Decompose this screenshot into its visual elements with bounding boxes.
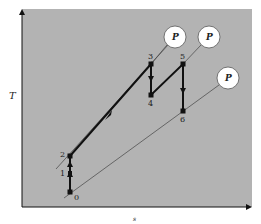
svg-text:P: P xyxy=(171,32,179,42)
point-label-1: 1 xyxy=(60,169,65,178)
point-label-6: 6 xyxy=(180,115,185,124)
point-label-2: 2 xyxy=(60,150,65,159)
pressure-label-3: P xyxy=(217,67,239,89)
svg-text:P: P xyxy=(224,73,232,83)
point-label-5: 5 xyxy=(180,52,185,61)
point-label-4: 4 xyxy=(148,99,153,108)
point-label-3: 3 xyxy=(148,52,153,61)
svg-text:P: P xyxy=(205,32,213,42)
t-s-diagram: T s 0 1 2 3 4 5 6 P xyxy=(0,0,261,224)
point-label-0: 0 xyxy=(74,193,79,202)
y-axis-label: T xyxy=(9,90,17,101)
point-4 xyxy=(149,93,154,98)
pressure-label-1: P xyxy=(164,26,186,48)
point-1 xyxy=(68,171,72,175)
point-3 xyxy=(149,62,154,67)
x-axis-label: s xyxy=(133,215,136,222)
point-2 xyxy=(68,154,73,159)
point-6 xyxy=(181,109,186,114)
pressure-label-2: P xyxy=(198,26,220,48)
point-5 xyxy=(181,62,186,67)
point-0 xyxy=(68,190,73,195)
